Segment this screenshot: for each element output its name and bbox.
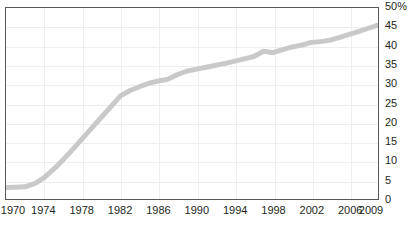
x-tick-label: 1970 bbox=[1, 204, 25, 217]
y-tick-label: 45 bbox=[385, 20, 397, 31]
x-tick-label: 1986 bbox=[146, 204, 170, 217]
y-axis: 50%454035302520151050 bbox=[385, 0, 414, 207]
y-tick-label: 40 bbox=[385, 40, 397, 51]
x-tick-label: 1974 bbox=[31, 204, 55, 217]
plot-area bbox=[5, 7, 379, 200]
y-tick-label: 10 bbox=[385, 155, 397, 166]
y-tick-label: 20 bbox=[385, 117, 397, 128]
series-line-percent bbox=[6, 25, 378, 187]
x-tick-label: 1982 bbox=[108, 204, 132, 217]
y-tick-label: 50% bbox=[385, 1, 407, 12]
x-tick-label: 1978 bbox=[69, 204, 93, 217]
x-axis: 1970197419781982198619901994199820022006… bbox=[0, 204, 414, 220]
caption-sliver bbox=[0, 226, 414, 231]
y-tick-label: 35 bbox=[385, 59, 397, 70]
y-tick-label: 25 bbox=[385, 98, 397, 109]
x-tick-label: 1994 bbox=[223, 204, 247, 217]
x-tick-label: 1998 bbox=[261, 204, 285, 217]
x-tick-label: 2002 bbox=[300, 204, 324, 217]
line-chart-figure: 50%454035302520151050 197019741978198219… bbox=[0, 0, 414, 231]
y-tick-label: 30 bbox=[385, 78, 397, 89]
x-tick-label: 2009 bbox=[359, 204, 383, 217]
series-svg bbox=[6, 8, 378, 199]
data-series-layer bbox=[6, 8, 378, 199]
y-tick-label: 15 bbox=[385, 136, 397, 147]
x-tick-label: 1990 bbox=[185, 204, 209, 217]
y-tick-label: 5 bbox=[385, 175, 391, 186]
